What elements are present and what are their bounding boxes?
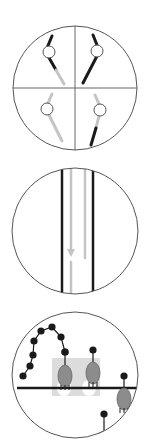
panel-circle-outline: [12, 168, 138, 294]
chain-bead: [19, 372, 26, 379]
arrowhead-icon: [67, 249, 75, 257]
surface-attachment-panel: [12, 312, 138, 441]
flagellum-light-stroke: [95, 95, 99, 104]
cell-body-ring: [43, 46, 55, 58]
partial-cell: [97, 431, 111, 441]
chain-bead: [29, 351, 36, 358]
cell-body-ring: [94, 104, 106, 116]
attached-cell: [58, 365, 72, 387]
chain-bead: [26, 362, 33, 369]
chain-bead: [37, 327, 44, 334]
chain-bead: [48, 323, 55, 330]
cell-body-ring: [91, 45, 103, 57]
stalk-tip-bead: [61, 348, 68, 355]
cell-body-ring: [41, 103, 53, 115]
flagellum-light-stroke: [48, 94, 52, 103]
stalk-tip-bead: [89, 346, 96, 353]
chain-bead: [30, 337, 37, 344]
stalk-tip-bead: [100, 410, 107, 417]
panel-content: [62, 169, 93, 294]
attached-cell: [86, 362, 100, 384]
flagellum-light-stroke: [96, 116, 99, 128]
stalk-tip-bead: [120, 372, 127, 379]
quadrant-panel: [13, 26, 137, 150]
flagellum-dark-stroke: [91, 128, 96, 145]
channel-panel: [12, 168, 138, 294]
flagellum-dark-stroke: [93, 35, 97, 45]
panel-content: [13, 26, 137, 150]
flagellum-dark-stroke: [83, 56, 97, 83]
diagram-canvas: [0, 0, 145, 441]
flagellum-light-stroke: [49, 115, 62, 141]
flagellum-light-stroke: [56, 70, 64, 84]
chain-bead: [57, 333, 64, 340]
